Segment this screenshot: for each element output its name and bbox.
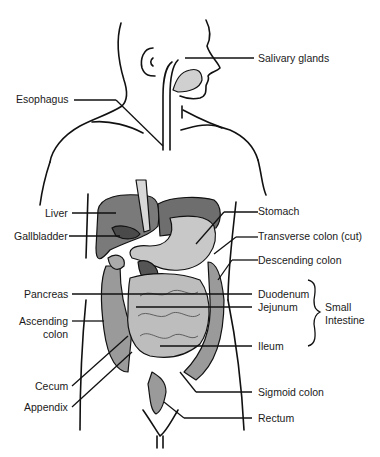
sigmoid-rectum [148,372,166,414]
ear [141,48,155,76]
label-transverse-colon: Transverse colon (cut) [258,230,362,242]
label-esophagus: Esophagus [16,93,69,105]
label-liver: Liver [45,207,68,219]
torso-left [40,162,50,205]
clavicle-left [92,122,143,133]
label-ileum: Ileum [258,340,284,352]
label-cecum: Cecum [35,380,68,392]
pelvis [143,410,178,436]
label-ascending: Ascending [19,315,68,327]
label-descending-colon: Descending colon [258,254,341,266]
label-duodenum: Duodenum [258,288,309,300]
clavicle-right [181,125,222,130]
label-sigmoid-colon: Sigmoid colon [258,386,324,398]
shoulder-right [183,110,258,160]
arm-right-inner [228,202,236,300]
small-intestine-brace [308,280,320,346]
torso-right-lower [228,300,244,430]
label-gallbladder: Gallbladder [14,230,68,242]
torso-left-lower [80,300,86,430]
label-intestine: Intestine [325,314,365,326]
label-stomach: Stomach [258,205,299,217]
ear-inner [151,58,153,66]
label-appendix: Appendix [24,401,68,413]
label-rectum: Rectum [258,412,294,424]
legs [157,436,163,448]
torso-right [258,160,266,195]
label-colon: colon [43,328,68,340]
pharynx-inner [170,60,178,150]
label-pancreas: Pancreas [24,288,68,300]
arm-left-inner [86,194,88,258]
label-salivary-glands: Salivary glands [258,52,329,64]
oral-cavity [173,69,202,92]
label-small: Small [325,301,351,313]
label-jejunum: Jejunum [258,301,298,313]
